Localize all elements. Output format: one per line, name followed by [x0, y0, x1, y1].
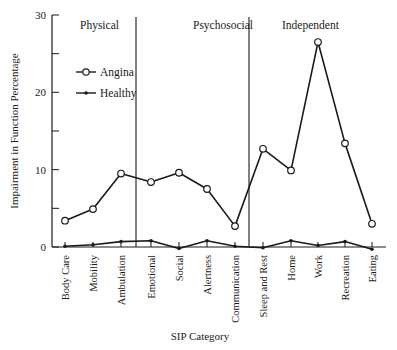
x-tick-label: Sleep and Rest	[258, 255, 269, 317]
x-axis-label: SIP Category	[171, 330, 230, 342]
data-point-healthy	[177, 247, 181, 251]
section-label-psychosocial: Psychosocial	[193, 19, 253, 32]
data-point-angina	[342, 140, 349, 147]
legend-label-healthy: Healthy	[100, 87, 137, 100]
x-tick-label: Mobility	[88, 254, 99, 292]
x-tick-label: Alertness	[202, 255, 213, 295]
legend-label-angina: Angina	[100, 66, 134, 79]
sip-chart: 0102030PhysicalPsychosocialIndependentBo…	[0, 0, 397, 350]
data-point-healthy	[370, 248, 374, 252]
data-point-angina	[204, 186, 211, 193]
data-point-healthy	[343, 240, 347, 244]
x-tick-label: Ambulation	[116, 254, 127, 305]
x-tick-label: Home	[286, 255, 297, 281]
data-point-angina	[260, 145, 267, 152]
data-point-healthy	[119, 240, 123, 244]
data-point-angina	[288, 167, 295, 174]
data-point-healthy	[63, 244, 67, 248]
data-point-healthy	[316, 244, 320, 248]
y-axis-label: Impairment in Function Percentage	[8, 53, 20, 209]
data-point-angina	[62, 217, 69, 224]
series-line-healthy	[65, 241, 372, 250]
data-point-healthy	[91, 243, 95, 247]
x-tick-label: Emotional	[146, 255, 157, 299]
data-point-healthy	[289, 239, 293, 243]
section-label-physical: Physical	[80, 19, 119, 32]
x-tick-label: Eating	[367, 254, 378, 282]
x-tick-label: Communication	[230, 254, 241, 322]
data-point-healthy	[233, 244, 237, 248]
x-tick-label: Body Care	[60, 255, 71, 301]
chart-canvas: 0102030PhysicalPsychosocialIndependentBo…	[0, 0, 397, 350]
y-tick-label: 30	[35, 9, 47, 21]
x-tick-label: Social	[174, 255, 185, 281]
data-point-angina	[176, 169, 183, 176]
data-point-healthy	[149, 239, 153, 243]
y-tick-label: 20	[35, 86, 47, 98]
section-label-independent: Independent	[282, 19, 340, 32]
data-point-angina	[315, 39, 322, 46]
data-point-healthy	[261, 246, 265, 250]
y-tick-label: 0	[41, 241, 47, 253]
x-tick-label: Recreation	[340, 254, 351, 300]
data-point-angina	[118, 170, 125, 177]
x-tick-label: Work	[313, 254, 324, 278]
data-point-angina	[232, 223, 239, 230]
legend-marker-healthy-icon	[84, 91, 88, 95]
data-point-angina	[90, 206, 97, 213]
y-tick-label: 10	[35, 164, 47, 176]
data-point-healthy	[205, 239, 209, 243]
data-point-angina	[369, 221, 376, 228]
legend-marker-angina-icon	[83, 69, 89, 75]
data-point-angina	[148, 179, 155, 186]
